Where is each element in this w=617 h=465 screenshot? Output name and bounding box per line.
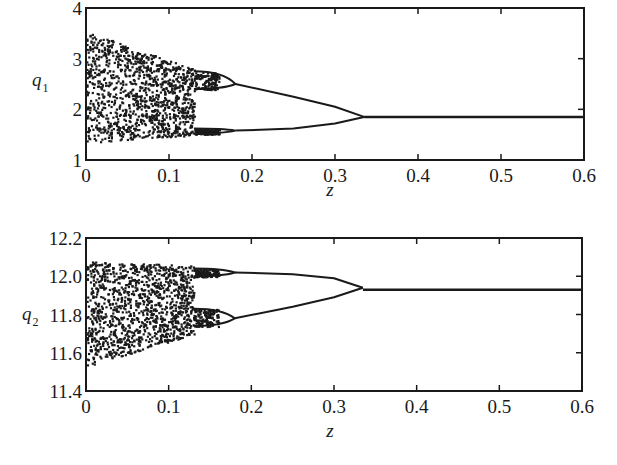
- y-tick-label: 11.6: [49, 343, 82, 364]
- x-tick-label: 0.1: [157, 396, 181, 417]
- y-tick-label: 1: [73, 150, 83, 171]
- y-tick-label: 12.0: [49, 266, 82, 287]
- y-tick-label: 12.2: [49, 228, 82, 249]
- x-axis-label-q2: z: [325, 420, 334, 441]
- x-tick-label: 0.6: [572, 165, 596, 186]
- x-tick-label: 0: [81, 165, 91, 186]
- x-tick-label: 0.4: [406, 165, 430, 186]
- x-tick-label: 0: [81, 396, 91, 417]
- x-tick-label: 0.3: [322, 396, 346, 417]
- x-tick-label: 0.5: [487, 396, 511, 417]
- x-tick-label: 0.1: [157, 165, 181, 186]
- y-tick-label: 2: [73, 99, 83, 120]
- bifurcation-curves-q1: [194, 71, 584, 133]
- x-tick-label: 0.2: [240, 165, 264, 186]
- y-tick-label: 11.4: [49, 381, 82, 402]
- bifurcation-curves-q2: [193, 269, 582, 326]
- ticks-q1: 00.10.20.30.40.50.61234: [73, 0, 596, 186]
- panel-q2: 00.10.20.30.40.50.611.411.611.812.012.2 …: [22, 228, 594, 441]
- figure: 00.10.20.30.40.50.61234 q1 z 00.10.20.30…: [0, 0, 617, 465]
- x-tick-label: 0.2: [239, 396, 263, 417]
- y-axis-label-q1: q1: [32, 69, 49, 95]
- x-tick-label: 0.4: [405, 396, 429, 417]
- panel-q1: 00.10.20.30.40.50.61234 q1 z: [32, 0, 596, 200]
- axes-frame-q2: [86, 238, 582, 391]
- y-axis-label-q2: q2: [22, 303, 39, 329]
- x-axis-label-q1: z: [325, 179, 334, 200]
- y-tick-label: 11.8: [49, 305, 82, 326]
- y-tick-label: 3: [73, 49, 83, 70]
- x-tick-label: 0.6: [570, 396, 594, 417]
- y-tick-label: 4: [73, 0, 83, 19]
- x-tick-label: 0.5: [489, 165, 513, 186]
